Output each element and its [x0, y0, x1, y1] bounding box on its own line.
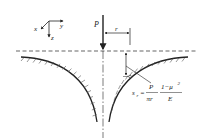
x-axis-label: x	[33, 25, 38, 33]
z-axis-label: z	[50, 34, 54, 42]
formula-equals: =	[140, 89, 145, 97]
radius-dimension: r	[105, 25, 130, 45]
formula-lhs: s	[132, 89, 135, 97]
coordinate-axes: x y z	[33, 21, 64, 42]
settlement-dimension	[123, 53, 151, 83]
load-label: P	[93, 20, 99, 29]
formula-lhs-subscript: r	[137, 93, 139, 98]
settlement-formula: s r = P πr 1−μ 2 E	[132, 81, 182, 103]
radius-label: r	[115, 25, 118, 33]
point-marker-icon	[129, 75, 132, 78]
formula-frac1-denominator: πr	[147, 95, 154, 103]
formula-frac1-numerator: P	[148, 83, 154, 91]
load-arrow: P	[93, 15, 103, 49]
settlement-diagram: x y z P r	[0, 0, 205, 140]
y-axis-label: y	[59, 22, 64, 30]
formula-frac2-superscript: 2	[178, 81, 181, 86]
left-settlement-curve	[21, 57, 97, 122]
formula-frac2-denominator: E	[167, 95, 173, 103]
leader-line	[126, 66, 151, 83]
formula-frac2-numerator: 1−μ	[161, 83, 173, 91]
x-axis-arrow	[41, 21, 49, 29]
